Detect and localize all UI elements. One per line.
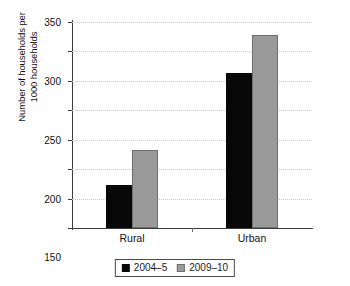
- y-axis-tick-label: 250: [44, 134, 61, 145]
- bar-urban-1: [252, 35, 278, 228]
- legend-label: 2004–5: [134, 261, 167, 274]
- y-axis-tick: 350: [68, 22, 72, 23]
- y-axis-tick-label: 350: [44, 17, 61, 28]
- y-axis-tick: 250: [68, 81, 72, 82]
- legend-swatch-icon: [177, 264, 185, 272]
- x-axis-category-label: Urban: [238, 232, 267, 244]
- x-axis-tick: [192, 228, 193, 232]
- y-axis-tick: 150: [68, 140, 72, 141]
- gridline: [72, 22, 312, 23]
- bar-chart: Number of households per 1000 households…: [0, 0, 350, 286]
- y-axis-tick: 200: [68, 110, 72, 111]
- y-axis-tick: 100: [68, 169, 72, 170]
- bar-rural-0: [106, 185, 132, 228]
- y-axis-tick-label: 300: [44, 75, 61, 86]
- chart-legend: 2004–5 2009–10: [115, 259, 235, 277]
- legend-item-series-1: 2009–10: [177, 261, 228, 274]
- y-axis-tick-label: 150: [44, 252, 61, 263]
- y-axis-tick: 0: [68, 228, 72, 229]
- x-axis-category-label: Rural: [119, 232, 144, 244]
- legend-swatch-icon: [122, 264, 130, 272]
- y-axis-title: Number of households per 1000 households: [16, 0, 40, 157]
- y-axis-tick: 50: [68, 199, 72, 200]
- bar-rural-1: [132, 150, 158, 228]
- legend-label: 2009–10: [189, 261, 228, 274]
- y-axis-tick: 300: [68, 51, 72, 52]
- bar-urban-0: [226, 73, 252, 228]
- y-axis-tick-label: 200: [44, 193, 61, 204]
- plot-area: 050100150200250300350: [72, 22, 312, 228]
- legend-item-series-0: 2004–5: [122, 261, 167, 274]
